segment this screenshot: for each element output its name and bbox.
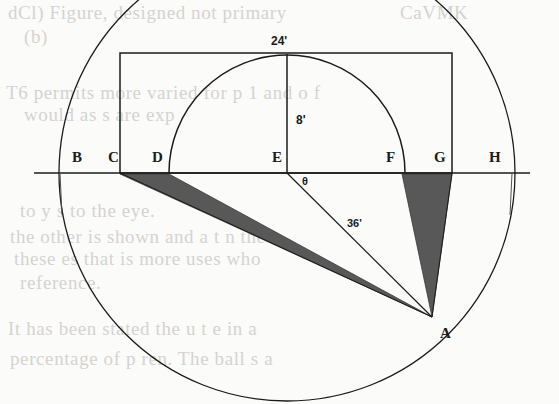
point-label-e: E <box>272 150 282 165</box>
figure-canvas: dCl) Figure, designed not primary (b) T6… <box>0 0 559 404</box>
right-shaded-triangle <box>402 174 452 317</box>
point-label-h: H <box>489 150 501 165</box>
dimension-label-rise: 8' <box>296 114 306 126</box>
point-label-c: C <box>108 150 119 165</box>
point-label-a: A <box>440 326 451 341</box>
dimension-label-radius: 36' <box>347 218 362 229</box>
point-label-d: D <box>152 150 163 165</box>
sight-line-c-a <box>120 173 432 317</box>
geometry-figure <box>0 0 559 404</box>
angle-label-theta: θ <box>302 176 308 187</box>
point-label-f: F <box>386 150 395 165</box>
point-label-b: B <box>72 150 82 165</box>
dimension-label-span: 24' <box>271 35 287 47</box>
point-label-g: G <box>434 150 446 165</box>
